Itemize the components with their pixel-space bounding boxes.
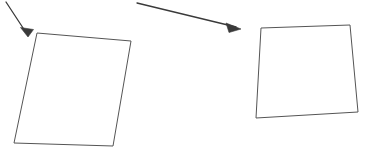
right-quadrilateral — [256, 25, 358, 118]
right-arrow-shaft — [137, 3, 236, 27]
diagram-canvas — [0, 0, 368, 151]
right-arrow-head-icon — [226, 23, 241, 33]
left-quadrilateral — [14, 33, 131, 146]
diagram-svg — [0, 0, 368, 151]
left-arrow-head-icon — [21, 28, 34, 38]
